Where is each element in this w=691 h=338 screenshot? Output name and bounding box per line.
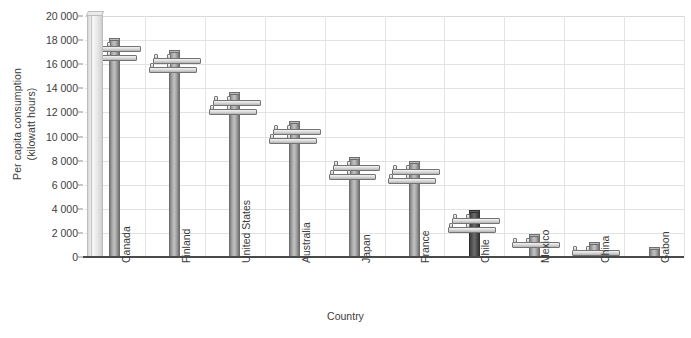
y-axis-tick-label: 16 000: [6, 58, 78, 70]
x-axis-tick-label: United States: [240, 200, 252, 263]
bar-crossarm: [273, 129, 321, 135]
x-axis-tick-label: Gabon: [659, 231, 671, 263]
bar-insulator: [526, 238, 530, 243]
x-axis-tick-label: Finland: [180, 229, 192, 263]
y-axis-tick-label: 8 000: [6, 155, 78, 167]
bar-insulator: [227, 96, 231, 101]
y-axis-tick-mark: [78, 184, 83, 185]
y-axis-tick-mark: [78, 16, 83, 17]
x-axis-title: Country: [0, 310, 691, 322]
gridline-vertical: [564, 16, 565, 257]
y-axis-tick-label: 14 000: [6, 82, 78, 94]
bar-crossarm: [329, 174, 377, 180]
y-axis-tick-label: 2 000: [6, 227, 78, 239]
bar-insulator: [274, 125, 278, 130]
bar-insulator: [287, 125, 291, 130]
bar-insulator: [227, 105, 231, 110]
bar-shaft-cap: [289, 121, 300, 124]
bar-insulator: [330, 170, 334, 175]
bar-crossarm: [512, 242, 560, 248]
x-axis-tick-label: China: [599, 236, 611, 263]
x-axis-tick-label: Australia: [300, 222, 312, 263]
bar-insulator: [389, 174, 393, 179]
bar-crossarm: [333, 165, 381, 171]
x-axis-line: [83, 256, 684, 258]
bar-utility-pole[interactable]: [444, 210, 504, 257]
x-axis-tick-label: Chile: [479, 239, 491, 263]
bar-insulator: [347, 170, 351, 175]
chart-container: Per capita consumption (kilowatt hours) …: [0, 0, 691, 338]
bar-utility-pole[interactable]: [265, 121, 325, 257]
bar-insulator: [154, 54, 158, 59]
bar-utility-pole[interactable]: [145, 50, 205, 257]
decorative-axis-pole-cap: [86, 11, 104, 16]
bar-insulator: [167, 63, 171, 68]
decorative-axis-pole: [87, 14, 103, 257]
bar-insulator: [334, 161, 338, 166]
bar-utility-pole[interactable]: [504, 234, 564, 257]
y-axis-tick-mark: [78, 40, 83, 41]
bar-insulator: [453, 214, 457, 219]
y-axis-tick-labels: 02 0004 0006 0008 00010 00012 00014 0001…: [0, 0, 78, 258]
bar-insulator: [449, 223, 453, 228]
bar-crossarm: [213, 100, 261, 106]
bar-insulator: [466, 214, 470, 219]
bar-insulator: [466, 223, 470, 228]
bar-insulator: [393, 165, 397, 170]
bar-crossarm: [209, 109, 257, 115]
y-axis-tick-label: 12 000: [6, 106, 78, 118]
bar-crossarm: [388, 178, 436, 184]
bar-crossarm: [149, 67, 197, 73]
bar-insulator: [586, 246, 590, 251]
bar-shaft: [349, 157, 360, 257]
bar-utility-pole[interactable]: [384, 161, 444, 257]
bar-shaft: [229, 92, 240, 257]
bar-shaft: [169, 50, 180, 257]
bar-shaft-cap: [169, 50, 180, 53]
y-axis-tick-mark: [78, 64, 83, 65]
y-axis-tick-label: 18 000: [6, 34, 78, 46]
x-axis-tick-label: Canada: [120, 226, 132, 263]
y-axis-tick-label: 10 000: [6, 131, 78, 143]
bar-insulator: [214, 96, 218, 101]
y-axis-tick-mark: [78, 112, 83, 113]
gridline-vertical: [684, 16, 685, 257]
bar-crossarm: [448, 227, 496, 233]
y-axis-tick-mark: [78, 160, 83, 161]
bar-insulator: [406, 165, 410, 170]
bar-crossarm: [269, 138, 317, 144]
gridline-vertical: [624, 16, 625, 257]
bar-shaft-cap: [349, 157, 360, 160]
y-axis-tick-label: 0: [6, 251, 78, 263]
y-axis-tick-mark: [78, 88, 83, 89]
bar-insulator: [270, 134, 274, 139]
x-axis-tick-label: Mexico: [539, 230, 551, 263]
bar-insulator: [513, 238, 517, 243]
bar-insulator: [287, 134, 291, 139]
bar-shaft-cap: [109, 38, 120, 41]
y-axis-tick-mark: [78, 136, 83, 137]
bar-insulator: [210, 105, 214, 110]
x-axis-tick-label: Japan: [360, 234, 372, 263]
y-axis-tick-label: 20 000: [6, 10, 78, 22]
bar-shaft-cap: [229, 92, 240, 95]
bar-shaft-cap: [649, 247, 660, 250]
bar-insulator: [107, 51, 111, 56]
bar-insulator: [167, 54, 171, 59]
bar-shaft-cap: [409, 161, 420, 164]
bar-shaft: [109, 38, 120, 257]
bar-shaft-cap: [469, 210, 480, 213]
bar-insulator: [150, 63, 154, 68]
bar-insulator: [406, 174, 410, 179]
bar-insulator: [107, 42, 111, 47]
bar-utility-pole[interactable]: [205, 92, 265, 257]
y-axis-tick-label: 4 000: [6, 203, 78, 215]
bar-insulator: [573, 246, 577, 251]
x-axis-tick-label: France: [419, 230, 431, 263]
y-axis-tick-mark: [78, 232, 83, 233]
y-axis-tick-label: 6 000: [6, 179, 78, 191]
bar-utility-pole[interactable]: [325, 157, 385, 257]
bar-utility-pole[interactable]: [564, 242, 624, 257]
y-axis-tick-mark: [78, 208, 83, 209]
bar-insulator: [347, 161, 351, 166]
